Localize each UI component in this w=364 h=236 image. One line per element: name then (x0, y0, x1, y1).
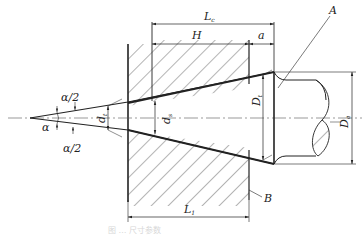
leader-A: A (278, 4, 337, 88)
svg-text:Lc: Lc (203, 10, 215, 23)
plate-upper (128, 40, 249, 106)
svg-text:B: B (263, 192, 272, 205)
dim-Lc: Lc (152, 10, 274, 24)
figure-caption: 图 … 尺寸参数 (108, 225, 161, 235)
svg-text:dt: dt (95, 113, 108, 123)
plate-lower (128, 130, 249, 206)
svg-text:Da: Da (338, 115, 351, 129)
svg-text:A: A (328, 4, 337, 17)
dim-ds: ds (155, 101, 173, 134)
svg-text:H: H (191, 29, 202, 42)
shank-lower (274, 156, 316, 164)
svg-text:a: a (258, 29, 265, 42)
svg-text:α: α (42, 121, 50, 134)
svg-text:α/2: α/2 (63, 142, 81, 155)
dim-a: a (249, 29, 274, 44)
svg-text:Dt: Dt (250, 94, 263, 107)
shank-upper (274, 72, 326, 100)
svg-text:ds: ds (160, 114, 173, 124)
leader-B: B (249, 190, 272, 205)
dim-Dt: Dt (250, 70, 272, 160)
svg-text:α/2: α/2 (61, 91, 79, 104)
tool-plate-diagram: Lc H a A B α/2 α α/2 dt ds (0, 0, 364, 236)
